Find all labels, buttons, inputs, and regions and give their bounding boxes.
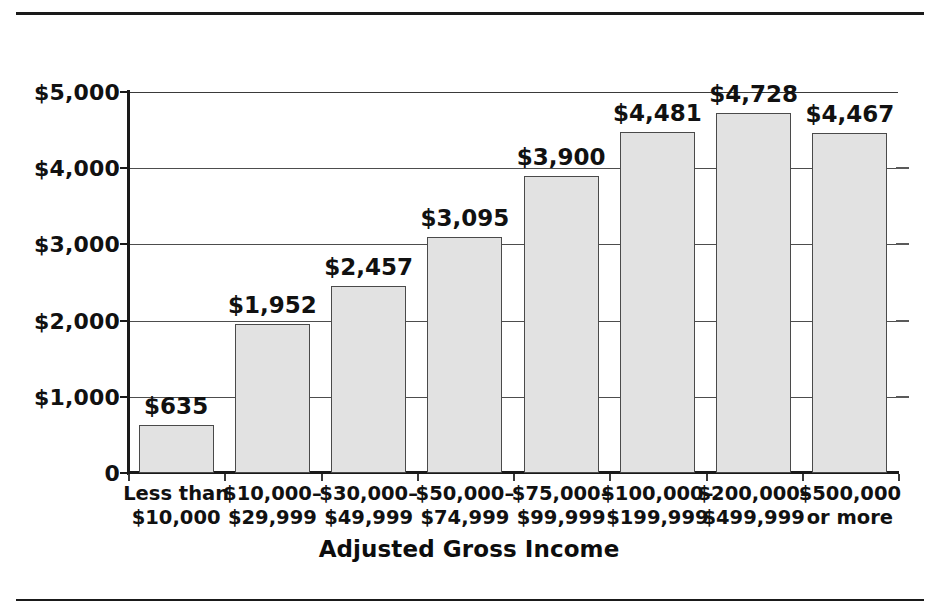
x-tick-mark bbox=[321, 474, 323, 481]
x-axis-title: Adjusted Gross Income bbox=[0, 536, 938, 562]
bar bbox=[716, 113, 791, 473]
category-label-line-2: $29,999 bbox=[223, 506, 322, 530]
right-edge-tick-mark bbox=[896, 396, 909, 398]
bar bbox=[620, 132, 695, 473]
category-label-line-1: $50,000– bbox=[416, 482, 515, 505]
y-axis-line bbox=[127, 90, 130, 475]
category-label-line-2: $499,999 bbox=[698, 506, 810, 530]
top-divider-rule bbox=[16, 12, 924, 15]
bar bbox=[331, 286, 406, 473]
right-edge-tick-mark bbox=[896, 320, 909, 322]
x-tick-mark bbox=[128, 474, 130, 481]
x-tick-mark bbox=[224, 474, 226, 481]
right-edge-tick-mark bbox=[896, 243, 909, 245]
category-label-line-1: $10,000– bbox=[223, 482, 322, 505]
category-label-line-2: $99,999 bbox=[512, 506, 611, 530]
y-axis-tick-label: $5,000 bbox=[2, 80, 120, 105]
chart-figure: 0$1,000$2,000$3,000$4,000$5,000 $635$1,9… bbox=[0, 0, 938, 610]
x-axis-category-label: $30,000–$49,999 bbox=[319, 482, 418, 530]
bar-value-label: $3,900 bbox=[517, 144, 606, 170]
x-tick-mark bbox=[898, 474, 900, 481]
x-tick-mark bbox=[417, 474, 419, 481]
category-label-line-1: $75,000– bbox=[512, 482, 611, 505]
x-axis-category-label: $50,000–$74,999 bbox=[416, 482, 515, 530]
bar bbox=[235, 324, 310, 473]
x-tick-mark bbox=[513, 474, 515, 481]
category-label-line-2: $74,999 bbox=[416, 506, 515, 530]
category-label-line-2: $49,999 bbox=[319, 506, 418, 530]
right-edge-tick-mark bbox=[896, 167, 909, 169]
bar bbox=[524, 176, 599, 473]
bar bbox=[812, 133, 887, 473]
x-tick-mark bbox=[706, 474, 708, 481]
x-axis-category-label: $75,000–$99,999 bbox=[512, 482, 611, 530]
bottom-divider-rule bbox=[16, 599, 924, 601]
bar-value-label: $3,095 bbox=[420, 205, 509, 231]
category-label-line-2: $10,000 bbox=[123, 506, 229, 530]
bar-value-label: $2,457 bbox=[324, 254, 413, 280]
bar-value-label: $4,481 bbox=[613, 100, 702, 126]
category-label-line-1: $200,000– bbox=[698, 482, 810, 505]
x-axis-category-label: $200,000–$499,999 bbox=[698, 482, 810, 530]
y-axis-labels: 0$1,000$2,000$3,000$4,000$5,000 bbox=[0, 0, 120, 610]
x-axis-category-label: $500,000or more bbox=[799, 482, 901, 530]
y-axis-tick-label: 0 bbox=[2, 461, 120, 486]
bar bbox=[139, 425, 214, 473]
y-axis-tick-label: $3,000 bbox=[2, 232, 120, 257]
x-axis-category-label: Less than$10,000 bbox=[123, 482, 229, 530]
y-axis-tick-label: $1,000 bbox=[2, 384, 120, 409]
category-label-line-1: Less than bbox=[123, 482, 229, 505]
x-axis-category-label: $10,000–$29,999 bbox=[223, 482, 322, 530]
y-axis-tick-label: $2,000 bbox=[2, 308, 120, 333]
y-axis-tick-label: $4,000 bbox=[2, 156, 120, 181]
bar-value-label: $635 bbox=[144, 393, 208, 419]
bar-value-label: $4,728 bbox=[709, 81, 798, 107]
bar bbox=[427, 237, 502, 473]
category-label-line-1: $500,000 bbox=[799, 482, 901, 505]
category-label-line-1: $30,000– bbox=[319, 482, 418, 505]
x-tick-mark bbox=[802, 474, 804, 481]
category-label-line-2: or more bbox=[799, 506, 901, 530]
bar-value-label: $1,952 bbox=[228, 292, 317, 318]
bar-value-label: $4,467 bbox=[805, 101, 894, 127]
x-tick-mark bbox=[609, 474, 611, 481]
